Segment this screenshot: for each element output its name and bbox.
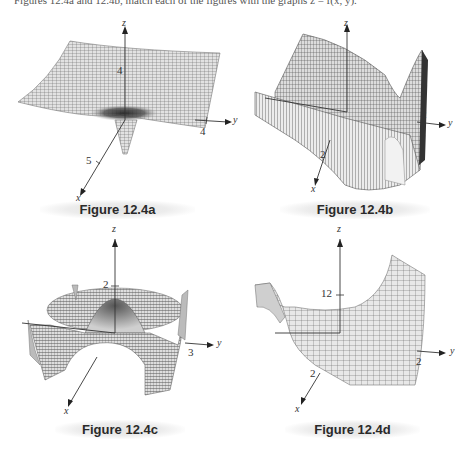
x-tick-label: 2 [310, 367, 316, 379]
y-tick-label: 4 [200, 125, 206, 137]
x-axis-label: x [64, 405, 68, 416]
figure-caption: Figure 12.4b [280, 200, 430, 219]
figure-12-4b: z y x 2 2 Figure 12.4b [235, 20, 470, 220]
z-axis-label: z [337, 223, 341, 234]
figure-12-4d: z y x 2 2 12 Figure 12.4d [235, 225, 470, 453]
figure-12-4c: z y x 3 2 Figure 12.4c [0, 225, 235, 453]
z-axis-label: z [112, 223, 116, 234]
y-axis-label: y [217, 337, 221, 348]
surface-plot-d [235, 225, 470, 453]
figure-caption: Figure 12.4d [285, 420, 420, 439]
x-axis-label: x [311, 183, 315, 194]
y-tick-label: 2 [421, 108, 427, 120]
figure-caption: Figure 12.4a [40, 200, 195, 219]
z-tick-label: 2 [103, 278, 109, 290]
z-axis-label: z [344, 17, 348, 28]
y-tick-label: 2 [416, 355, 422, 367]
y-tick-label: 3 [188, 346, 194, 358]
x-tick-label: 2 [320, 148, 326, 160]
figure-caption: Figure 12.4c [55, 420, 185, 439]
figure-12-4a: z y x 5 4 4 Figure 12.4a [0, 20, 235, 220]
y-axis-label: y [448, 117, 452, 128]
z-tick-label: 12 [321, 287, 332, 299]
x-tick-label: 5 [86, 154, 92, 166]
y-axis-label: y [450, 345, 454, 356]
z-tick-label: 4 [117, 64, 123, 76]
surface-plot-b [235, 20, 470, 220]
x-axis-label: x [295, 403, 299, 414]
surface-plot-a [0, 20, 235, 220]
header-text: Figures 12.4a and 12.4b, match each of t… [14, 0, 454, 6]
z-axis-label: z [122, 17, 126, 28]
surface-plot-c [0, 225, 235, 453]
